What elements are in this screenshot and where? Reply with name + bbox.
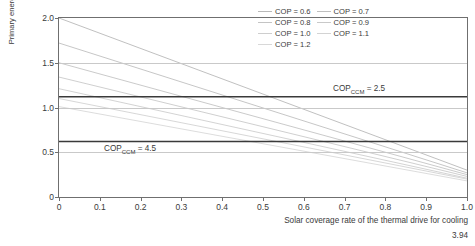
series-line bbox=[59, 63, 467, 175]
legend-swatch-icon bbox=[258, 11, 272, 12]
legend-item[interactable]: COP = 0.6 bbox=[258, 6, 311, 16]
tick-x bbox=[141, 197, 142, 201]
tick-y bbox=[55, 63, 59, 64]
legend-item[interactable]: COP = 1.0 bbox=[258, 28, 311, 38]
x-tick-label: 0.3 bbox=[166, 202, 196, 212]
legend-label: COP = 0.6 bbox=[275, 7, 311, 16]
legend-swatch-icon bbox=[258, 44, 272, 45]
legend-label: COP = 1.1 bbox=[334, 29, 370, 38]
figure-container: Primary energy expenditure per unit of u… bbox=[0, 0, 475, 246]
chart-legend: COP = 0.6COP = 0.8COP = 1.0COP = 1.2COP … bbox=[258, 6, 404, 49]
tick-x bbox=[345, 197, 346, 201]
figure-number: 3.94 bbox=[400, 231, 468, 240]
tick-x bbox=[263, 197, 264, 201]
x-tick-label: 0.9 bbox=[411, 202, 441, 212]
series-line bbox=[59, 89, 467, 179]
x-tick-label: 0.8 bbox=[370, 202, 400, 212]
legend-label: COP = 0.9 bbox=[334, 18, 370, 27]
tick-x bbox=[222, 197, 223, 201]
legend-swatch-icon bbox=[317, 22, 331, 23]
series-line bbox=[59, 77, 467, 176]
x-tick-label: 0.7 bbox=[330, 202, 360, 212]
x-tick-label: 0.2 bbox=[126, 202, 156, 212]
x-axis-title: Solar coverage rate of the thermal drive… bbox=[232, 216, 468, 225]
tick-y bbox=[55, 18, 59, 19]
x-tick-label: 0.1 bbox=[85, 202, 115, 212]
x-tick-label: 0.5 bbox=[248, 202, 278, 212]
legend-label: COP = 1.0 bbox=[275, 29, 311, 38]
tick-y bbox=[55, 152, 59, 153]
legend-swatch-icon bbox=[258, 33, 272, 34]
x-tick-label: 0.6 bbox=[289, 202, 319, 212]
legend-swatch-icon bbox=[317, 11, 331, 12]
series-line bbox=[59, 99, 467, 180]
y-axis-title: Primary energy expenditure per unit of u… bbox=[2, 0, 32, 51]
legend-item[interactable]: COP = 0.9 bbox=[317, 17, 370, 27]
x-tick-label: 0 bbox=[44, 202, 74, 212]
legend-label: COP = 0.8 bbox=[275, 18, 311, 27]
gridline-y bbox=[59, 63, 467, 64]
y-tick-label: 2.0 bbox=[28, 13, 54, 23]
tick-x bbox=[467, 197, 468, 201]
legend-column-2: COP = 0.7COP = 0.9COP = 1.1 bbox=[317, 6, 370, 49]
tick-x bbox=[304, 197, 305, 201]
legend-label: COP = 0.7 bbox=[334, 7, 370, 16]
x-tick-label: 1.0 bbox=[452, 202, 475, 212]
tick-x bbox=[426, 197, 427, 201]
annotation-cop-ccm-4-5: COPCCM = 4.5 bbox=[104, 144, 156, 155]
legend-column-1: COP = 0.6COP = 0.8COP = 1.0COP = 1.2 bbox=[258, 6, 311, 49]
tick-x bbox=[181, 197, 182, 201]
y-tick-label: 1.5 bbox=[28, 58, 54, 68]
y-tick-label: 1.0 bbox=[28, 103, 54, 113]
annotation-cop-ccm-2-5: COPCCM = 2.5 bbox=[333, 84, 385, 95]
legend-item[interactable]: COP = 1.1 bbox=[317, 28, 370, 38]
legend-item[interactable]: COP = 0.7 bbox=[317, 6, 370, 16]
y-tick-label: 0.5 bbox=[28, 147, 54, 157]
legend-swatch-icon bbox=[317, 33, 331, 34]
x-tick-label: 0.4 bbox=[207, 202, 237, 212]
legend-swatch-icon bbox=[258, 22, 272, 23]
legend-label: COP = 1.2 bbox=[275, 40, 311, 49]
tick-y bbox=[55, 108, 59, 109]
tick-x bbox=[100, 197, 101, 201]
tick-x bbox=[385, 197, 386, 201]
gridline-y bbox=[59, 108, 467, 109]
tick-x bbox=[59, 197, 60, 201]
y-tick-label: 0 bbox=[28, 192, 54, 202]
legend-item[interactable]: COP = 0.8 bbox=[258, 17, 311, 27]
legend-item[interactable]: COP = 1.2 bbox=[258, 39, 311, 49]
